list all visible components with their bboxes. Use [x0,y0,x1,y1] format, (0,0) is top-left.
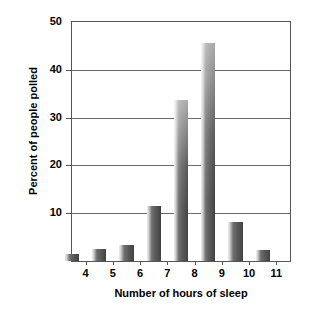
x-axis-title: Number of hours of sleep [71,287,291,299]
bar [119,245,133,261]
bar [92,249,106,261]
plot-area [71,21,291,262]
gridline [72,70,290,71]
bar [174,100,188,261]
x-tick-label: 6 [130,267,150,279]
x-tick-label: 4 [76,267,96,279]
bar [65,254,79,261]
x-tick-label: 11 [266,267,286,279]
bar [256,250,270,261]
bar [147,206,161,261]
bar [228,222,242,261]
plot-inner [72,22,290,261]
x-tick-label: 8 [185,267,205,279]
x-tick-label: 5 [103,267,123,279]
bar [201,43,215,261]
bar-chart-figure: Percent of people polled 1020304050 4567… [0,0,316,311]
x-tick-label: 9 [212,267,232,279]
x-tick-label: 7 [157,267,177,279]
y-axis-title: Percent of people polled [22,0,44,262]
x-tick-label: 10 [239,267,259,279]
